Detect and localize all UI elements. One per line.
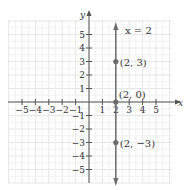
y-tick-label: 4 xyxy=(79,43,85,53)
x-tick-label: −4 xyxy=(29,105,43,115)
point-label: (2, 3) xyxy=(120,57,147,68)
x-tick-label: −3 xyxy=(42,105,56,115)
line-up-arrow-icon xyxy=(113,22,118,30)
x-tick-label: 5 xyxy=(153,105,159,115)
y-tick-label: 3 xyxy=(79,57,85,67)
line-down-arrow-icon xyxy=(113,178,118,186)
y-axis-arrow-icon xyxy=(87,10,92,16)
point-label: (2, −3) xyxy=(120,138,155,149)
y-tick-label: −5 xyxy=(72,165,86,175)
y-tick-label: 1 xyxy=(79,84,85,94)
y-axis-label: y xyxy=(79,10,86,20)
y-tick-label: −2 xyxy=(72,124,85,134)
point-label: (2, 0) xyxy=(119,89,146,100)
x-tick-label: −5 xyxy=(15,105,29,115)
coordinate-plane-graph: −5−4−3−2−112345−5−4−3−2−112345 (2, 3)(2,… xyxy=(0,0,188,190)
data-point xyxy=(113,99,118,104)
y-tick-label: −3 xyxy=(72,138,86,148)
y-tick-label: −1 xyxy=(72,111,85,121)
y-tick-label: −4 xyxy=(72,151,86,161)
y-tick-label: 2 xyxy=(79,70,85,80)
data-point xyxy=(113,140,118,145)
data-point xyxy=(113,59,118,64)
y-tick-label: 5 xyxy=(79,30,85,40)
x-tick-label: 4 xyxy=(140,105,146,115)
x-tick-label: 3 xyxy=(126,105,132,115)
axes xyxy=(8,10,181,183)
x-tick-label: −2 xyxy=(56,105,69,115)
x-axis-label: x xyxy=(178,98,183,108)
x-tick-label: 1 xyxy=(100,105,106,115)
equation-label: x = 2 xyxy=(125,25,152,36)
